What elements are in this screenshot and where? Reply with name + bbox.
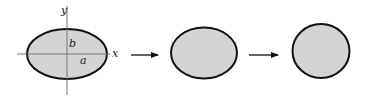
x-axis-label: x xyxy=(112,47,119,60)
semi-major-label: a xyxy=(80,54,87,67)
ellipse-with-axes: y x b a xyxy=(17,4,119,95)
ellipse-2 xyxy=(171,28,237,79)
y-axis-label: y xyxy=(60,4,68,17)
ellipse-to-circle-diagram: y x b a xyxy=(0,0,365,99)
circle-3 xyxy=(293,24,350,78)
semi-minor-label: b xyxy=(69,37,76,50)
